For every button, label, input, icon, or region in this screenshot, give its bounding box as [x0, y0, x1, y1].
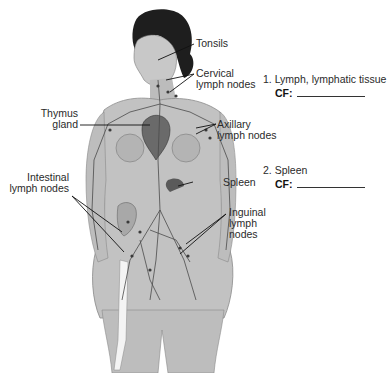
cf-label: CF: [275, 87, 293, 99]
question-1-text: 1. Lymph, lymphatic tissue [263, 73, 386, 85]
label-intestinal-lymph-nodes-line2: lymph nodes [9, 183, 69, 194]
cf-answer-blank-1[interactable] [297, 87, 365, 97]
label-thymus-gland-line2: gland [52, 119, 78, 130]
left-arm [86, 112, 108, 262]
label-axillary-lymph-nodes-line2: lymph nodes [217, 130, 277, 141]
label-spleen: Spleen [223, 177, 256, 188]
cf-answer-blank-2[interactable] [297, 178, 365, 188]
right-breast [172, 134, 200, 162]
label-inguinal-lymph-nodes-line3: nodes [229, 229, 258, 240]
cf-label: CF: [275, 178, 293, 190]
label-cervical-lymph-nodes-line2: lymph nodes [196, 79, 256, 90]
question-2-text: 2. Spleen [263, 164, 307, 176]
question-1-cf: CF: [275, 87, 365, 99]
label-tonsils: Tonsils [196, 38, 228, 49]
question-2-cf: CF: [275, 178, 365, 190]
left-breast [116, 134, 144, 162]
